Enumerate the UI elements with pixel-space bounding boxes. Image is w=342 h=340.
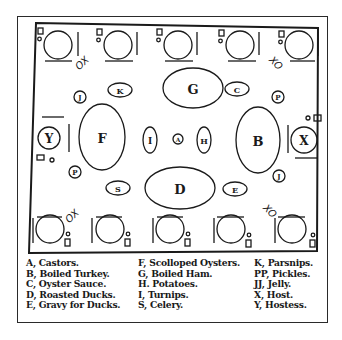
legend-item: Y, Hostess.	[254, 300, 313, 311]
legend-item: K, Parsnips.	[254, 258, 313, 269]
place-setting-top-4	[219, 30, 259, 61]
dish-c-label: C	[234, 85, 240, 95]
ox-label-bottom-right: XO	[260, 201, 279, 220]
place-setting-top-1	[38, 28, 78, 61]
place-setting-top-2	[97, 29, 137, 61]
ox-label-top-right: XO	[266, 53, 285, 72]
dish-e-label: E	[232, 185, 238, 195]
legend-item: S, Celery.	[138, 300, 240, 311]
dish-d-label: D	[174, 182, 185, 197]
dish-b-label: B	[253, 134, 264, 149]
place-setting-bottom-4	[214, 215, 251, 247]
legend-item: A, Castors.	[26, 258, 120, 269]
place-setting-top-5	[279, 31, 318, 61]
dish-j-right-label: J	[276, 172, 281, 181]
host-x-label: X	[299, 134, 309, 148]
place-setting-bottom-2	[92, 215, 130, 246]
hostess-y-label: Y	[44, 132, 54, 146]
dish-p-left-label: P	[72, 168, 78, 177]
ox-label-top-left: OX	[73, 53, 92, 72]
dish-f-label: F	[97, 131, 107, 146]
legend-item: F, Scolloped Oysters.	[138, 258, 240, 269]
dish-i-label: I	[148, 136, 152, 146]
dish-h-label: H	[200, 136, 208, 146]
dish-j-left-label: J	[77, 93, 82, 102]
legend-column-2: F, Scolloped Oysters. G, Boiled Ham. H. …	[138, 258, 240, 311]
table-diagram: OX XO OX XO G F B D K C S E I H A J J P …	[0, 0, 342, 260]
legend-item: E, Gravy for Ducks.	[26, 300, 120, 311]
ox-label-bottom-left: OX	[63, 206, 82, 225]
place-setting-bottom-5	[275, 215, 315, 247]
legend-column-1: A, Castors. B, Boiled Turkey. C, Oyster …	[26, 258, 120, 311]
place-setting-bottom-3	[153, 215, 190, 246]
legend-column-3: K, Parsnips. PP, Pickles. JJ, Jelly. X, …	[254, 258, 313, 311]
dish-k-label: K	[117, 86, 125, 96]
place-setting-top-3	[157, 29, 197, 61]
dish-g-label: G	[187, 82, 198, 97]
dish-s-label: S	[115, 184, 121, 194]
dish-a-label: A	[175, 136, 181, 143]
dish-p-right-label: P	[275, 93, 281, 102]
